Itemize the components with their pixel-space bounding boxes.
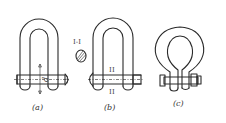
shackle-diagram: d (a) I-I I I I I (b) (c) (0, 0, 226, 123)
caption-a: (a) (32, 103, 43, 112)
panel-b-shackle: I I I I (b) (88, 18, 144, 112)
caption-b: (b) (104, 103, 115, 112)
dimension-label-d: d (41, 77, 50, 82)
panel-a-shackle: d (a) (14, 19, 70, 112)
section-label: I-I (73, 38, 81, 46)
section-view-I-I: I-I (73, 38, 86, 62)
caption-c: (c) (173, 99, 184, 108)
section-mark-top-2: I (112, 66, 115, 74)
panel-c-shackle: (c) (155, 27, 203, 108)
section-mark-bottom-2: I (112, 88, 115, 96)
